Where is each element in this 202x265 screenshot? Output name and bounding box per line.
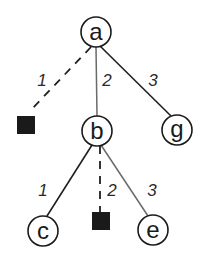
edge-a-to-b — [96, 47, 97, 116]
edge-label-a-b: 2 — [101, 71, 112, 90]
node-a-label: a — [89, 18, 103, 45]
node-b-label: b — [90, 117, 103, 144]
edge-label-b-leaf2: 2 — [106, 181, 117, 200]
node-c: c — [28, 216, 58, 246]
node-e-label: e — [146, 216, 159, 243]
node-a: a — [81, 17, 111, 47]
leaf-square-middle — [92, 212, 110, 230]
edge-b-to-c — [47, 145, 92, 216]
edge-label-b-e: 3 — [147, 181, 157, 200]
node-c-label: c — [37, 217, 49, 244]
tree-diagram: 1 2 3 1 2 3 a b g c e — [0, 0, 202, 265]
node-g: g — [162, 115, 192, 146]
edge-label-a-g: 3 — [148, 71, 158, 90]
node-b: b — [82, 116, 112, 146]
node-e: e — [138, 215, 168, 245]
leaf-square-left — [17, 116, 35, 134]
edge-label-a-leaf1: 1 — [37, 71, 46, 90]
edge-label-b-c: 1 — [38, 181, 47, 200]
node-g-label: g — [170, 115, 183, 142]
